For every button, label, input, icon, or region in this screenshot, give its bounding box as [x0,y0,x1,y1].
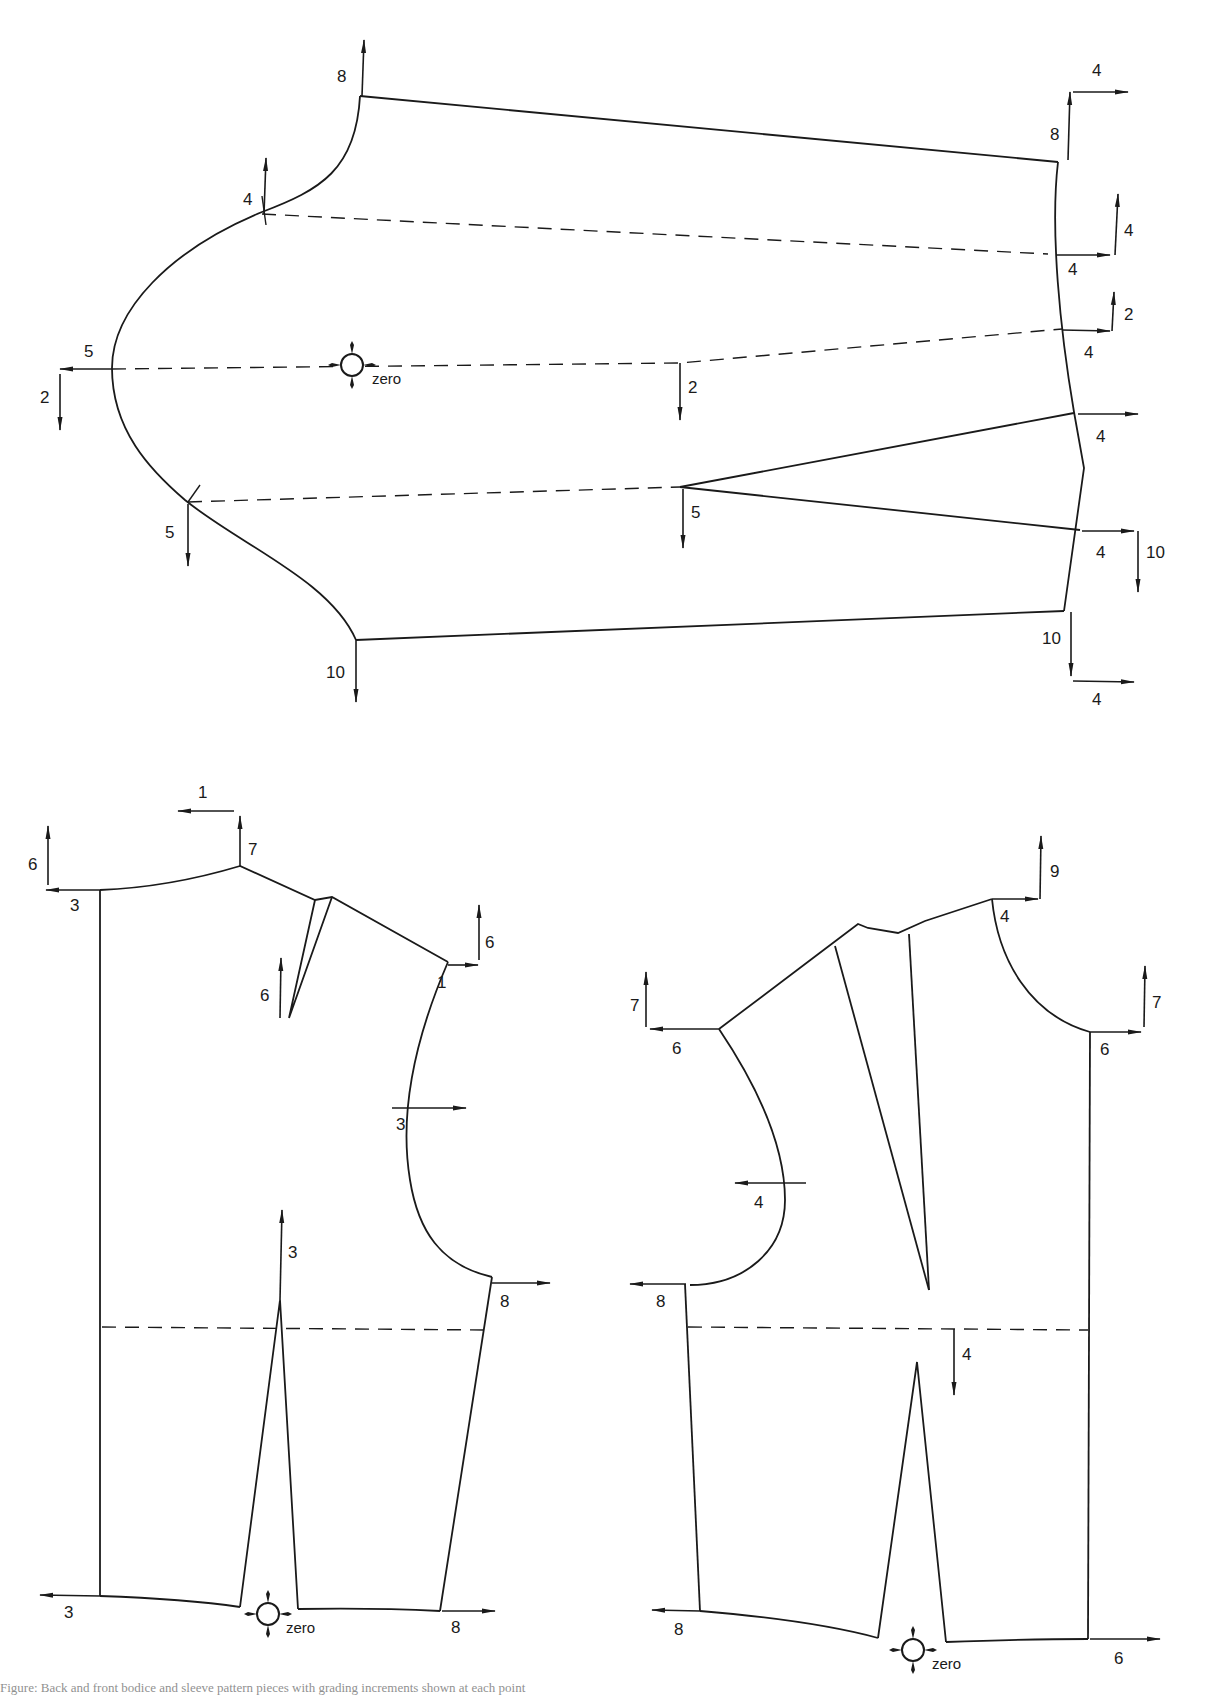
grade-label: 6 [260,986,269,1005]
zero-label: zero [932,1655,961,1672]
zero-label: zero [286,1619,315,1636]
grade-label: 8 [656,1292,665,1311]
zero-point-icon [244,1590,292,1638]
grade-label: 6 [1114,1649,1123,1668]
grade-label: 5 [84,342,93,361]
figure-caption: Figure: Back and front bodice and sleeve… [0,1680,525,1696]
grade-label: 4 [1096,427,1105,446]
grade-label: 4 [1092,690,1101,709]
grade-label: 5 [691,503,700,522]
grade-label: 5 [165,523,174,542]
grade-label: 4 [1092,61,1101,80]
grade-label: 10 [326,663,345,682]
grade-label: 8 [1050,125,1059,144]
zero-point-icon [889,1626,937,1674]
grade-label: 4 [1124,221,1133,240]
grade-label: 8 [451,1618,460,1637]
grade-label: 4 [1084,343,1093,362]
front-bodice-piece: zero 9 4 7 6 7 6 4 8 4 8 6 [630,836,1161,1674]
grade-label: 10 [1146,543,1165,562]
grade-label: 10 [1042,629,1061,648]
grade-label: 8 [337,67,346,86]
grade-label: 1 [198,783,207,802]
grade-label: 6 [485,933,494,952]
grade-label: 9 [1050,862,1059,881]
grade-label: 4 [243,190,252,209]
grade-label: 7 [1152,993,1161,1012]
grade-label: 1 [437,973,446,992]
grade-label: 4 [754,1193,763,1212]
grade-label: 3 [396,1115,405,1134]
grade-label: 8 [500,1292,509,1311]
grade-label: 3 [64,1603,73,1622]
grade-label: 7 [248,840,257,859]
grade-label: 4 [1096,543,1105,562]
grade-label: 2 [1124,305,1133,324]
grade-label: 4 [1068,260,1077,279]
grade-label: 2 [40,388,49,407]
grade-label: 3 [288,1243,297,1262]
grade-label: 6 [1100,1040,1109,1059]
grade-label: 6 [28,855,37,874]
grade-label: 8 [674,1620,683,1639]
grade-label: 4 [962,1345,971,1364]
back-bodice-piece: zero 6 3 1 7 6 6 1 3 3 8 3 8 [28,783,550,1638]
grade-label: 3 [70,896,79,915]
sleeve-piece: zero 8 4 5 2 5 10 2 5 8 4 4 4 4 2 4 4 [40,40,1165,709]
zero-label: zero [372,370,401,387]
grade-label: 2 [688,378,697,397]
grade-label: 4 [1000,907,1009,926]
zero-point-icon [328,341,376,389]
grade-label: 6 [672,1039,681,1058]
grade-label: 7 [630,996,639,1015]
